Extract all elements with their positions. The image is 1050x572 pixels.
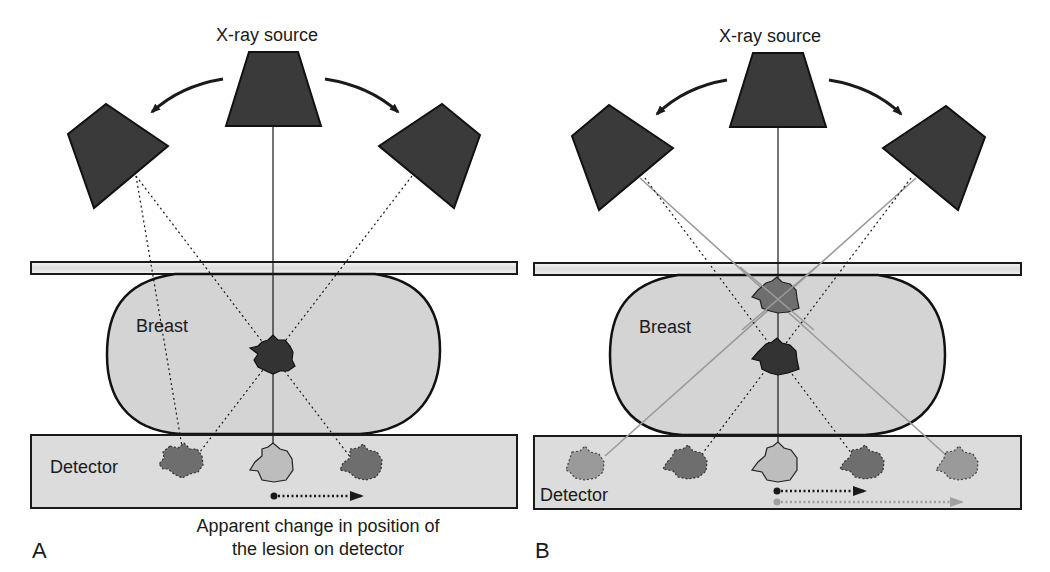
rotation-arrow-left <box>657 80 727 114</box>
rotation-arrow-left <box>152 79 223 112</box>
detector-label-a: Detector <box>50 457 118 478</box>
panel-letter-b: B <box>535 538 550 564</box>
shift-origin-dot <box>271 493 278 500</box>
shift-origin-dot-gray <box>774 499 781 506</box>
panel-letter-a: A <box>32 538 47 564</box>
caption-line-2: the lesion on detector <box>168 538 468 561</box>
xray-source-center <box>226 52 321 126</box>
breast-label-a: Breast <box>136 316 188 337</box>
detector-label-b: Detector <box>540 485 608 506</box>
caption: Apparent change in position of the lesio… <box>168 515 468 561</box>
tomosynthesis-diagram <box>0 0 1050 572</box>
panel-a <box>31 52 517 508</box>
breast-label-b: Breast <box>639 317 691 338</box>
shift-origin-dot-black <box>774 488 781 495</box>
xray-source-label-b: X-ray source <box>719 26 821 47</box>
xray-source-left <box>68 104 168 208</box>
xray-source-label-a: X-ray source <box>216 25 318 46</box>
rotation-arrow-right <box>325 79 398 112</box>
panel-b <box>534 53 1021 509</box>
xray-source-center <box>730 53 826 127</box>
compression-paddle <box>31 262 517 274</box>
caption-line-1: Apparent change in position of <box>168 515 468 538</box>
xray-source-right <box>379 104 480 208</box>
rotation-arrow-right <box>829 80 901 114</box>
